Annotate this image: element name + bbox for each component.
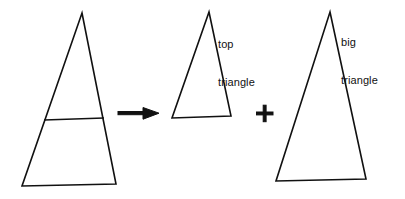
right-arrow-icon [118, 108, 159, 120]
composite-triangle-outline [22, 13, 116, 186]
big-triangle-label-line1: big [341, 36, 378, 49]
big-triangle-label: big triangle [341, 11, 378, 111]
top-triangle-label: top triangle [218, 13, 255, 113]
top-triangle-label-line2: triangle [218, 76, 255, 89]
big-triangle-label-line2: triangle [341, 74, 378, 87]
geometry-diagram-canvas: top triangle big triangle [0, 0, 405, 199]
top-triangle-label-line1: top [218, 38, 255, 51]
composite-triangle-group [22, 13, 116, 186]
composite-triangle-divider-line [44, 118, 104, 120]
plus-icon [257, 105, 274, 122]
